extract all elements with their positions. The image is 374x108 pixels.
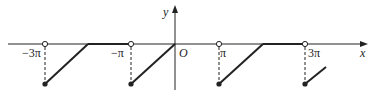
- tick-label-pi: π: [220, 46, 226, 60]
- tick-label-neg-3pi: −3π: [22, 46, 41, 60]
- function-graph: y x O −3π −π π 3π: [0, 0, 374, 108]
- x-axis-label: x: [359, 46, 366, 60]
- tick-label-3pi: 3π: [308, 46, 320, 60]
- origin-label: O: [179, 46, 188, 60]
- y-axis-arrow-icon: [172, 5, 178, 13]
- y-axis-label: y: [162, 5, 169, 19]
- tick-label-neg-pi: −π: [111, 46, 124, 60]
